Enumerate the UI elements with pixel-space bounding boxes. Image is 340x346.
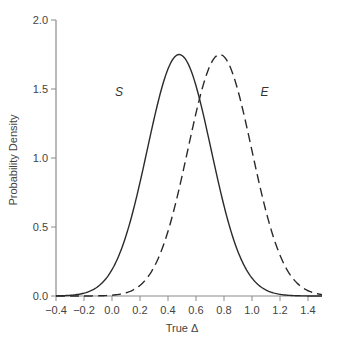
y-tick-label: 0.0 (33, 290, 48, 302)
label-s: S (115, 85, 123, 99)
axes: −0.4−0.20.00.20.40.60.81.01.21.40.00.51.… (33, 14, 322, 316)
y-tick-label: 1.0 (33, 152, 48, 164)
x-tick-label: 1.0 (244, 304, 259, 316)
x-tick-label: 0.6 (188, 304, 203, 316)
y-tick-label: 1.5 (33, 83, 48, 95)
label-e: E (261, 85, 270, 99)
series-labels: SE (115, 85, 270, 99)
curves (56, 55, 322, 296)
x-axis-label: True Δ (166, 322, 199, 334)
x-tick-label: 0.4 (160, 304, 175, 316)
y-tick-label: 0.5 (33, 221, 48, 233)
x-tick-label: 0.2 (132, 304, 147, 316)
x-tick-label: −0.4 (45, 304, 67, 316)
x-tick-label: 0.0 (104, 304, 119, 316)
curve-e (56, 55, 322, 296)
x-tick-label: 0.8 (216, 304, 231, 316)
x-tick-label: 1.4 (300, 304, 315, 316)
density-chart: −0.4−0.20.00.20.40.60.81.01.21.40.00.51.… (0, 0, 340, 346)
x-tick-label: −0.2 (73, 304, 95, 316)
x-tick-label: 1.2 (272, 304, 287, 316)
y-tick-label: 2.0 (33, 14, 48, 26)
y-axis-label: Probability Density (7, 114, 19, 206)
